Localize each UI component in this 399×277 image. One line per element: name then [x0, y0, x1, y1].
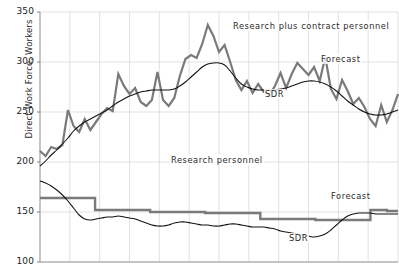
chart-plot-area [0, 0, 399, 277]
y-tick-label: 150 [0, 206, 34, 216]
y-tick-label: 250 [0, 106, 34, 116]
y-tick-label: 100 [0, 256, 34, 266]
chart-annotation-4: Forecast [330, 191, 372, 201]
y-tick-label: 350 [0, 6, 34, 16]
chart-annotation-3: Research personnel [170, 155, 264, 165]
y-tick-label: 200 [0, 156, 34, 166]
chart-annotation-5: SDR [288, 233, 309, 243]
chart-annotation-1: Forecast [320, 54, 362, 64]
chart-annotation-2: SDR [264, 89, 285, 99]
chart-root: Direct Work Force, Workers 1001502002503… [0, 0, 399, 277]
chart-annotation-0: Research plus contract personnel [232, 21, 390, 31]
y-tick-label: 300 [0, 56, 34, 66]
